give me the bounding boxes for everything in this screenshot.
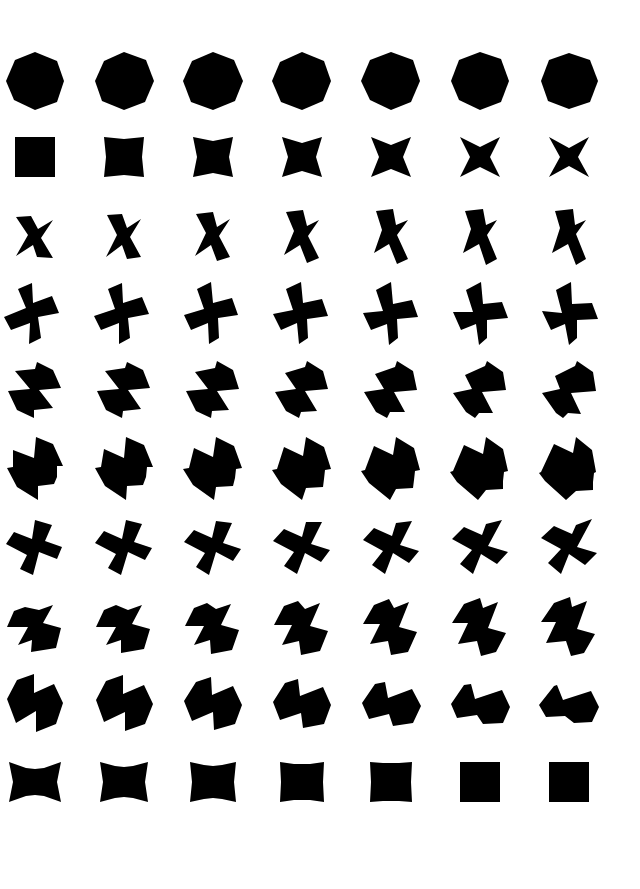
page-background xyxy=(0,0,640,889)
shape-grid-canvas xyxy=(0,0,640,889)
shape-r2-c3 xyxy=(193,137,233,177)
shape-r2-c4 xyxy=(282,137,322,177)
shape-r1-c7 xyxy=(541,53,598,109)
shape-r2-c2 xyxy=(104,137,144,177)
shape-r2-c1 xyxy=(15,137,55,177)
shape-r10-c4 xyxy=(280,762,324,802)
shape-r10-c5 xyxy=(370,762,412,802)
shape-r10-c7 xyxy=(549,762,589,802)
shape-r10-c2 xyxy=(100,762,148,802)
shape-r10-c3 xyxy=(190,762,236,802)
shape-r10-c6 xyxy=(460,762,500,802)
